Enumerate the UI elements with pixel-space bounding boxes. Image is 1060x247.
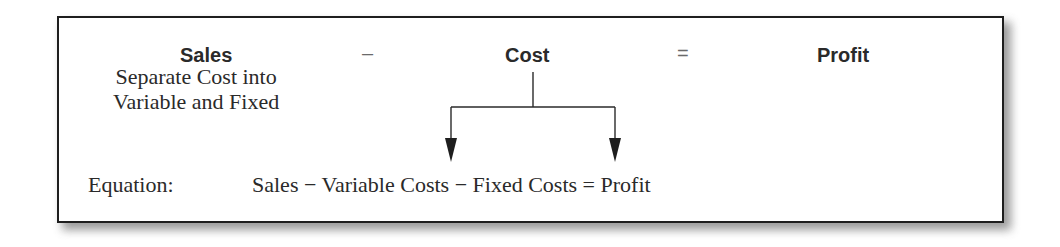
equation-label: Equation: [88,172,174,197]
equation-text: Sales − Variable Costs − Fixed Costs = P… [252,172,651,197]
arrow-down-icon [445,138,457,162]
cost-split-arrows [0,0,1060,247]
arrow-lines [451,72,615,142]
arrow-down-icon [609,138,621,162]
